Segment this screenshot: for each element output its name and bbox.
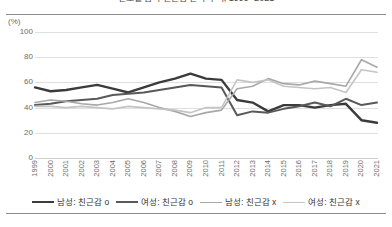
x-tick-2008: 2008 [171, 160, 179, 177]
x-tick-2014: 2014 [264, 160, 272, 177]
legend-label-3: 여성: 친근감 x [308, 198, 359, 207]
y-axis-unit-label: (%) [8, 17, 20, 26]
x-tick-2000: 2000 [47, 160, 55, 177]
y-tick-60: 60 [7, 78, 33, 86]
top-divider [6, 14, 386, 15]
x-tick-2001: 2001 [62, 160, 70, 177]
chart-page: 연도별 남녀 친근감 인식 추이, 1999~2021 (%) 10080604… [0, 0, 392, 227]
x-tick-2015: 2015 [280, 160, 288, 177]
legend-item-0[interactable]: 남성: 친근감 o [32, 198, 109, 207]
x-tick-2011: 2011 [218, 160, 226, 176]
legend-label-2: 남성: 친근감 x [225, 198, 276, 207]
x-tick-2003: 2003 [93, 160, 101, 177]
x-tick-2004: 2004 [109, 160, 117, 177]
x-tick-2009: 2009 [186, 160, 194, 177]
y-axis-tick-labels: 100806040200 [0, 32, 33, 158]
x-tick-2019: 2019 [342, 160, 350, 177]
y-tick-20: 20 [7, 129, 33, 137]
y-tick-40: 40 [7, 104, 33, 112]
legend-item-2[interactable]: 남성: 친근감 x [200, 198, 276, 207]
gridline-0 [35, 158, 378, 159]
x-tick-2021: 2021 [373, 160, 381, 177]
y-tick-80: 80 [7, 53, 33, 61]
x-tick-2005: 2005 [124, 160, 132, 177]
x-tick-2017: 2017 [311, 160, 319, 177]
legend-swatch-2 [200, 202, 222, 203]
legend-item-3[interactable]: 여성: 친근감 x [283, 198, 359, 207]
series-lines [35, 32, 378, 158]
x-tick-1999: 1999 [31, 160, 39, 177]
x-tick-2010: 2010 [202, 160, 210, 177]
y-tick-100: 100 [7, 28, 33, 36]
legend-swatch-3 [283, 202, 305, 203]
x-tick-2002: 2002 [78, 160, 86, 177]
x-tick-2020: 2020 [357, 160, 365, 177]
x-tick-2012: 2012 [233, 160, 241, 177]
legend-label-1: 여성: 친근감 o [141, 198, 193, 207]
x-tick-2007: 2007 [155, 160, 163, 177]
bottom-divider [6, 213, 386, 214]
x-tick-2006: 2006 [140, 160, 148, 177]
plot-area [35, 32, 378, 158]
legend-swatch-0 [32, 201, 54, 203]
series-line-남성: 친근감 o [35, 74, 377, 123]
legend-swatch-1 [116, 201, 138, 203]
legend-label-0: 남성: 친근감 o [57, 198, 109, 207]
x-tick-2016: 2016 [295, 160, 303, 177]
x-axis-tick-labels: 1999200020012002200320042005200620072008… [35, 160, 378, 190]
chart-title: 연도별 남녀 친근감 인식 추이, 1999~2021 [0, 0, 392, 4]
legend-item-1[interactable]: 여성: 친근감 o [116, 198, 193, 207]
series-line-여성: 친근감 o [35, 85, 377, 115]
x-tick-2013: 2013 [249, 160, 257, 177]
chart-legend: 남성: 친근감 o여성: 친근감 o남성: 친근감 x여성: 친근감 x [0, 195, 392, 209]
x-tick-2018: 2018 [326, 160, 334, 177]
